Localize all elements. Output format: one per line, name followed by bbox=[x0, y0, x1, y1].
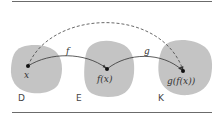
point-gfx-label: g(f(x)) bbox=[167, 77, 195, 86]
set-e-label: E bbox=[76, 94, 82, 103]
composition-diagram bbox=[0, 0, 223, 117]
set-k-blob bbox=[158, 40, 212, 95]
point-x bbox=[26, 64, 30, 68]
set-e-blob bbox=[84, 41, 134, 97]
arrow-f-label: f bbox=[66, 47, 69, 56]
point-gfx bbox=[181, 69, 185, 73]
arrow-g-label: g bbox=[144, 47, 150, 56]
set-k-label: K bbox=[158, 94, 164, 103]
set-d-label: D bbox=[18, 94, 25, 103]
point-fx-label: f(x) bbox=[97, 75, 112, 84]
point-fx bbox=[105, 67, 109, 71]
point-x-label: x bbox=[24, 71, 29, 80]
set-d-blob bbox=[11, 45, 62, 93]
